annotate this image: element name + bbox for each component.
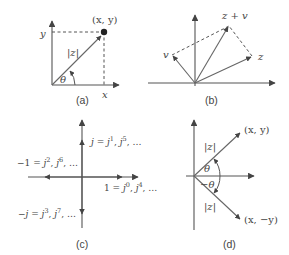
c-label-neg-one: −1 = j2, j6, …: [17, 156, 78, 168]
d-lower-angle-arc: [214, 176, 220, 193]
a-point-dot: [101, 29, 107, 35]
c-label-j: j = j1, j5, …: [89, 135, 141, 147]
d-lower-magnitude-label: |z|: [204, 201, 216, 213]
d-upper-angle-label: θ: [204, 163, 210, 174]
a-x-label: x: [102, 89, 108, 100]
a-caption: (a): [76, 94, 89, 106]
b-v-vector: [173, 56, 195, 83]
panel-a: (x, y) y x |z| θ (a): [39, 14, 119, 106]
b-z-label: z: [257, 51, 264, 62]
d-lower-point-label: (x, −y): [244, 214, 278, 225]
d-upper-vector: [194, 133, 240, 176]
complex-plane-figure: (x, y) y x |z| θ (a) z + v v z (b) j = j…: [0, 0, 289, 255]
a-angle-label: θ: [60, 74, 66, 85]
b-caption: (b): [205, 94, 218, 106]
panel-b: z + v v z (b): [148, 10, 275, 106]
c-label-one: 1 = j0, j4, …: [104, 181, 157, 193]
a-point-label: (x, y): [92, 14, 118, 25]
d-upper-magnitude-label: |z|: [204, 141, 216, 153]
b-z-vector: [195, 57, 251, 83]
b-dashed-z-to-sum: [229, 26, 252, 56]
b-sum-label: z + v: [221, 10, 248, 21]
a-angle-arc: [70, 71, 75, 85]
d-upper-angle-arc: [214, 159, 220, 176]
c-label-neg-j: −j = j3, j7, …: [18, 207, 76, 219]
b-v-label: v: [163, 49, 169, 60]
a-magnitude-label: |z|: [67, 47, 79, 59]
d-upper-point-label: (x, y): [244, 124, 270, 135]
panel-d: (x, y) (x, −y) |z| |z| θ −θ (d): [186, 120, 278, 250]
a-y-label: y: [39, 28, 46, 39]
d-caption: (d): [223, 238, 236, 250]
c-caption: (c): [76, 238, 88, 250]
d-lower-angle-label: −θ: [200, 179, 214, 190]
panel-c: j = j1, j5, … −1 = j2, j6, … 1 = j0, j4,…: [17, 120, 157, 250]
